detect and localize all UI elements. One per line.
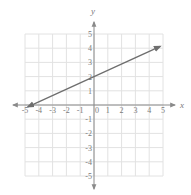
x-tick-label: -2 bbox=[63, 106, 70, 115]
x-tick-label: 1 bbox=[106, 106, 110, 115]
y-tick-label: -4 bbox=[85, 158, 92, 167]
y-tick-label: 4 bbox=[88, 44, 92, 53]
x-tick-label: 5 bbox=[161, 106, 165, 115]
y-tick-label: 5 bbox=[88, 30, 92, 39]
y-tick-label: -5 bbox=[85, 172, 92, 181]
x-tick-label: -1 bbox=[77, 106, 84, 115]
y-tick-label: 3 bbox=[88, 58, 92, 67]
x-axis-label: x bbox=[179, 100, 184, 110]
x-tick-label: 0 bbox=[95, 106, 99, 115]
x-tick-label: -3 bbox=[49, 106, 56, 115]
x-tick-label: -5 bbox=[22, 106, 29, 115]
y-tick-label: -3 bbox=[85, 144, 92, 153]
y-tick-label: -2 bbox=[85, 129, 92, 138]
x-tick-label: 2 bbox=[120, 106, 124, 115]
y-tick-label: 1 bbox=[88, 87, 92, 96]
y-axis-label: y bbox=[90, 6, 95, 16]
x-tick-label: -4 bbox=[35, 106, 42, 115]
x-tick-label: 3 bbox=[133, 106, 137, 115]
coordinate-plane: -5-4-3-2-101234554321-1-2-3-4-5 x y bbox=[0, 0, 191, 195]
y-tick-label: -1 bbox=[85, 115, 92, 124]
x-tick-label: 4 bbox=[147, 106, 151, 115]
